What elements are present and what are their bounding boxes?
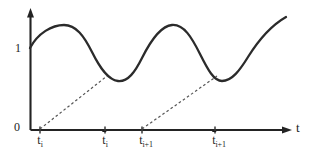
ramp-line-second [142,76,217,129]
signal-curve [30,17,286,81]
y-axis-unit-label: 1 [15,42,21,54]
plot-canvas [0,0,310,154]
tick-label-subscript: i+1 [216,140,226,149]
y-axis-origin-label: 0 [14,121,20,133]
tick-label-t-sub-i: ti [37,134,42,146]
tick-label-t-bar-sub-i: ti [102,134,107,146]
figure-root: 1 0 t ti ti ti+1 ti+1 [0,0,310,154]
y-axis-arrowhead [27,8,34,18]
tick-label-t-bar-sub-i-plus-1: ti+1 [212,134,225,146]
x-axis-name-label: t [296,121,300,134]
ramp-line-first [40,76,107,129]
tick-label-t-sub-i-plus-1: ti+1 [139,134,152,146]
tick-label-subscript: i+1 [143,140,153,149]
x-axis-arrowhead [282,126,292,133]
